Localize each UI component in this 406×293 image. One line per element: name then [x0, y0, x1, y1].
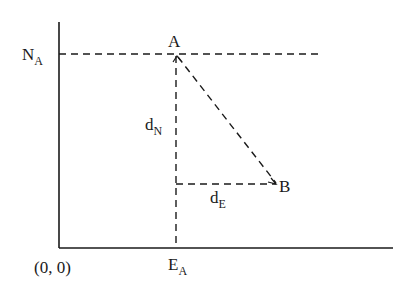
y-axis-label: NA: [22, 45, 43, 68]
diagram-canvas: NA A B dN dE (0, 0) EA: [0, 0, 406, 293]
point-a-label: A: [168, 32, 181, 51]
ab-distance-line: [178, 57, 276, 183]
x-axis-label: EA: [168, 255, 187, 278]
d-north-label: dN: [145, 115, 163, 138]
arrowhead-a-icon: [173, 56, 181, 62]
point-b-label: B: [279, 177, 290, 196]
origin-label: (0, 0): [34, 258, 71, 277]
d-east-label: dE: [210, 188, 226, 211]
northing-easting-diagram: NA A B dN dE (0, 0) EA: [0, 0, 406, 293]
